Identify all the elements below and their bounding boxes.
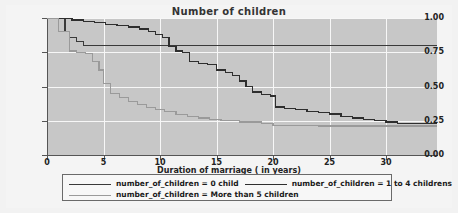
legend-swatch-line (245, 184, 287, 185)
legend-swatch-line (69, 195, 111, 196)
chart-legend: number_of_children = 0 childnumber_of_ch… (62, 174, 392, 201)
series-line (47, 18, 437, 45)
chart-screenshot: Number of children 0.000.250.500.751.00 … (0, 0, 458, 213)
legend-label: number_of_children = 1 to 4 childrens (292, 180, 452, 188)
series-line (47, 18, 437, 126)
legend-label: number_of_children = 0 child (116, 180, 239, 188)
legend-row: number_of_children = More than 5 childre… (63, 189, 299, 201)
series-line (47, 18, 437, 123)
chart-title: Number of children (14, 6, 444, 17)
plot-container: Number of children 0.000.250.500.751.00 … (14, 8, 444, 168)
legend-label: number_of_children = More than 5 childre… (116, 191, 299, 199)
x-axis-line (47, 155, 438, 156)
legend-swatch-line (69, 184, 111, 185)
series-lines (47, 18, 437, 155)
